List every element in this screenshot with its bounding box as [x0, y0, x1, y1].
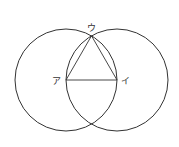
point-label-u: ウ [87, 23, 96, 33]
geometry-figure: ア イ ウ [0, 0, 179, 147]
segment-a-u [66, 36, 92, 80]
diagram-canvas: ア イ ウ [0, 0, 179, 147]
segment-i-u [92, 36, 118, 80]
point-label-i: イ [121, 76, 130, 86]
point-label-a: ア [52, 76, 61, 86]
